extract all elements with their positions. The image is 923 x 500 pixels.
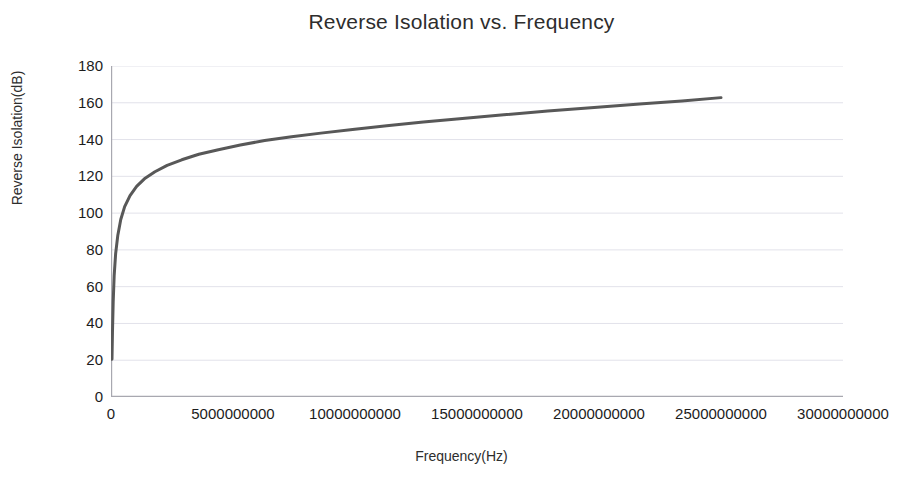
y-tick-label: 0 xyxy=(57,389,103,404)
y-tick-label: 160 xyxy=(57,95,103,110)
chart-title: Reverse Isolation vs. Frequency xyxy=(0,10,923,34)
x-tick-label: 20000000000 xyxy=(553,406,645,421)
x-tick-label: 30000000000 xyxy=(797,406,889,421)
x-tick-label: 25000000000 xyxy=(675,406,767,421)
data-series-line xyxy=(112,98,721,360)
x-tick-label: 10000000000 xyxy=(309,406,401,421)
x-axis-tick-labels: 0500000000010000000000150000000002000000… xyxy=(111,406,843,430)
x-tick-label: 15000000000 xyxy=(431,406,523,421)
plot-area xyxy=(111,66,843,397)
y-tick-label: 20 xyxy=(57,352,103,367)
y-tick-label: 120 xyxy=(57,168,103,183)
x-tick-label: 0 xyxy=(107,406,115,421)
x-tick-label: 5000000000 xyxy=(191,406,274,421)
y-axis-title: Reverse Isolation(dB) xyxy=(9,18,25,258)
y-axis-tick-labels: 020406080100120140160180 xyxy=(49,66,103,397)
y-tick-label: 80 xyxy=(57,242,103,257)
y-tick-label: 40 xyxy=(57,315,103,330)
y-tick-label: 140 xyxy=(57,132,103,147)
x-axis-title: Frequency(Hz) xyxy=(0,448,923,464)
chart-container: Reverse Isolation vs. Frequency Reverse … xyxy=(0,0,923,500)
y-tick-label: 100 xyxy=(57,205,103,220)
plot-svg xyxy=(111,66,843,397)
y-tick-label: 60 xyxy=(57,279,103,294)
y-tick-label: 180 xyxy=(57,58,103,73)
